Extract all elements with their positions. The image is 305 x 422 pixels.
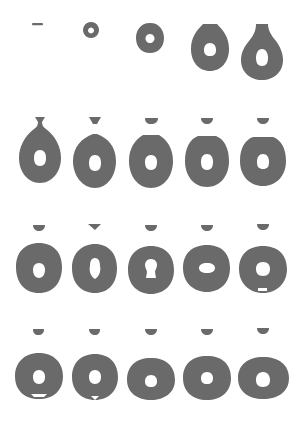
frame-r4c3 bbox=[127, 329, 175, 400]
frames-canvas bbox=[0, 0, 305, 422]
frame-r3c5 bbox=[239, 224, 287, 293]
frame-r4c2 bbox=[72, 329, 118, 400]
frame-r4c4 bbox=[183, 329, 231, 400]
frame-r4c1 bbox=[15, 329, 63, 399]
frame-r1c4 bbox=[191, 24, 229, 71]
frame-r1c5 bbox=[241, 24, 283, 80]
frame-r1c1 bbox=[32, 23, 43, 25]
frame-r2c4 bbox=[185, 118, 229, 187]
frame-r3c1 bbox=[16, 225, 62, 293]
frame-r3c2 bbox=[72, 224, 117, 293]
drop-sequence-figure: Sequence of 20 frames showing drop growt… bbox=[0, 0, 305, 422]
frame-r1c2 bbox=[83, 22, 99, 38]
frame-r3c3 bbox=[128, 225, 174, 294]
frame-r4c5 bbox=[238, 328, 289, 399]
frame-r1c3 bbox=[136, 23, 164, 53]
frame-r3c4 bbox=[183, 225, 230, 292]
frame-r2c2 bbox=[73, 117, 116, 188]
frame-r2c1 bbox=[19, 117, 61, 183]
frame-r2c5 bbox=[240, 118, 286, 186]
frame-r2c3 bbox=[129, 118, 173, 188]
